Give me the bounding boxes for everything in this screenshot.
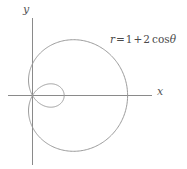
y-axis-label: y xyxy=(23,4,29,15)
polar-curve-figure: y x r=1+2cosθ xyxy=(0,0,187,169)
x-axis-label: x xyxy=(157,86,163,97)
equation-annotation: r=1+2cosθ xyxy=(110,33,176,45)
equation-variable: θ xyxy=(170,33,176,45)
equation-function: cos xyxy=(150,33,170,45)
equation-equals: = xyxy=(115,33,126,45)
equation-plus: + xyxy=(133,33,144,45)
equation-constant: 1 xyxy=(126,33,133,45)
limacon-inner-loop-helper xyxy=(33,82,65,101)
